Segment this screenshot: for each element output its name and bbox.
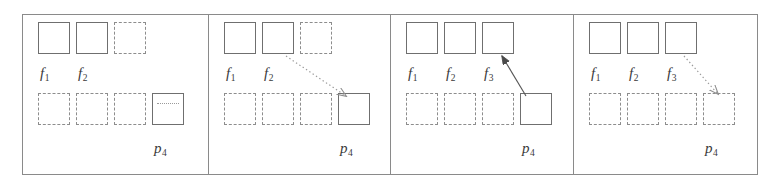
panel-2-page-label-4-sub: 4 <box>348 148 353 158</box>
panel-2-frame-cell-1 <box>224 22 256 54</box>
panel-3-frame-label-2-sub: 2 <box>451 73 456 83</box>
panel-1-frame-cell-1 <box>38 22 70 54</box>
panel-1-frame-label-1: f1 <box>40 66 49 81</box>
panel-3-page-cell-3 <box>482 93 514 125</box>
panel-4-page-cell-2 <box>627 93 659 125</box>
panel-4-frame-label-3: f3 <box>667 66 676 81</box>
panel-3-frame-cell-1 <box>406 22 438 54</box>
panel-1-page-cell-1 <box>38 93 70 125</box>
panel-2-frame-label-1: f1 <box>226 66 235 81</box>
panel-3-frame-label-1-text: f <box>408 65 412 81</box>
panel-4-frame-label-3-text: f <box>667 65 671 81</box>
panel-1-frame-label-2-text: f <box>78 65 82 81</box>
panel-3-page-cell-4 <box>520 93 552 125</box>
panel-4-page-cell-3 <box>665 93 697 125</box>
panel-3-frame-label-2-text: f <box>446 65 450 81</box>
panel-2: f1 f2 p4 <box>208 14 390 175</box>
panel-2-page-cell-3 <box>300 93 332 125</box>
panel-1-frame-label-2-sub: 2 <box>83 73 88 83</box>
panel-4-frame-label-2-sub: 2 <box>634 73 639 83</box>
panel-2-frame-cell-2 <box>262 22 294 54</box>
panel-3-frame-cell-3 <box>482 22 514 54</box>
panel-4-frame-label-1: f1 <box>591 66 600 81</box>
panel-3-page-label-4-text: p <box>522 140 530 156</box>
panel-2-frame-label-1-sub: 1 <box>231 73 236 83</box>
panel-2-page-cell-1 <box>224 93 256 125</box>
panel-3-frame-cell-2 <box>444 22 476 54</box>
panel-2-frame-cell-3 <box>300 22 332 54</box>
panel-1-frame-label-1-sub: 1 <box>45 73 50 83</box>
panel-4-page-label-4-sub: 4 <box>713 148 718 158</box>
panel-3-page-label-4-sub: 4 <box>530 148 535 158</box>
panel-3-frame-label-3: f3 <box>484 66 493 81</box>
panel-1-frame-label-1-text: f <box>40 65 44 81</box>
panel-1-frame-cell-3 <box>114 22 146 54</box>
panel-4-frame-cell-1 <box>589 22 621 54</box>
panel-2-page-label-4-text: p <box>340 140 348 156</box>
panel-1-page-label-4-text: p <box>154 140 162 156</box>
panel-1-page-cell-2 <box>76 93 108 125</box>
panel-4-frame-cell-3 <box>665 22 697 54</box>
panel-1-frame-label-2: f2 <box>78 66 87 81</box>
figure-root: f1 f2 p4 f1 f2 p4 <box>0 0 782 189</box>
panel-4-frame-label-2: f2 <box>629 66 638 81</box>
panel-1-page-label-4: p4 <box>154 141 166 156</box>
panel-4-page-label-4: p4 <box>705 141 717 156</box>
panel-4-frame-label-2-text: f <box>629 65 633 81</box>
panel-1-page-cell-3 <box>114 93 146 125</box>
panel-2-page-cell-4 <box>338 93 370 125</box>
panel-1-page-label-4-sub: 4 <box>162 148 167 158</box>
panel-2-frame-label-2: f2 <box>264 66 273 81</box>
panel-3-frame-label-3-sub: 3 <box>489 73 494 83</box>
panel-4-frame-label-1-text: f <box>591 65 595 81</box>
panel-3-page-cell-2 <box>444 93 476 125</box>
panel-3-frame-label-2: f2 <box>446 66 455 81</box>
panel-4-page-label-4-text: p <box>705 140 713 156</box>
panel-3-page-label-4: p4 <box>522 141 534 156</box>
panel-2-frame-label-2-text: f <box>264 65 268 81</box>
panel-1-frame-cell-2 <box>76 22 108 54</box>
panel-4: f1 f2 f3 p4 <box>573 14 758 175</box>
panel-3-frame-label-3-text: f <box>484 65 488 81</box>
panel-4-frame-label-1-sub: 1 <box>596 73 601 83</box>
panel-4-frame-cell-2 <box>627 22 659 54</box>
panel-4-page-cell-4 <box>703 93 735 125</box>
panel-3-frame-label-1: f1 <box>408 66 417 81</box>
panel-2-frame-label-2-sub: 2 <box>269 73 274 83</box>
panel-2-page-cell-2 <box>262 93 294 125</box>
panel-3-page-cell-1 <box>406 93 438 125</box>
panel-1-page-cell-4-dotted-line <box>157 103 179 104</box>
panel-3-frame-label-1-sub: 1 <box>413 73 418 83</box>
panel-2-frame-label-1-text: f <box>226 65 230 81</box>
panel-2-page-label-4: p4 <box>340 141 352 156</box>
panel-1-page-cell-4 <box>152 93 184 125</box>
panel-1: f1 f2 p4 <box>22 14 208 175</box>
panel-4-frame-label-3-sub: 3 <box>672 73 677 83</box>
panel-3: f1 f2 f3 p4 <box>390 14 573 175</box>
panel-4-page-cell-1 <box>589 93 621 125</box>
